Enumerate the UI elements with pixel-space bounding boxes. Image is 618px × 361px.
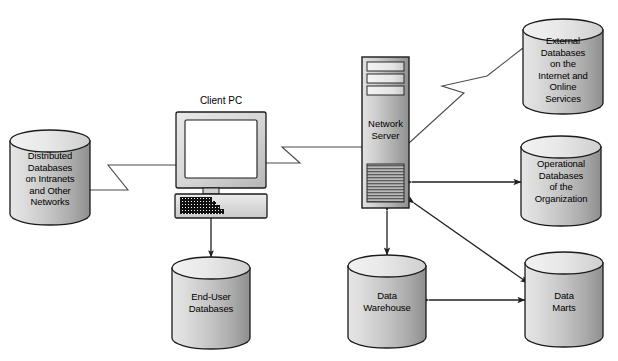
diagram-canvas: Distributed Databases on Intranets and O… [0,0,618,361]
connector-network-server-to-external-db [409,48,523,143]
node-operational-db[interactable] [521,136,601,226]
node-data-marts[interactable] [525,252,603,347]
node-label-client-pc: Client PC [176,95,266,107]
diagram-svg [0,0,618,361]
node-data-warehouse[interactable] [348,255,426,348]
node-external-db[interactable] [523,19,603,114]
node-label-network-server: Network Server [360,118,411,141]
node-client-pc[interactable] [175,112,267,218]
connector-distributed-db-to-client-pc [90,165,176,190]
node-distributed-db[interactable] [10,130,90,225]
connector-network-server-to-data-marts [414,203,528,283]
connector-client-pc-to-network-server [266,147,362,163]
node-end-user-db[interactable] [172,257,250,349]
